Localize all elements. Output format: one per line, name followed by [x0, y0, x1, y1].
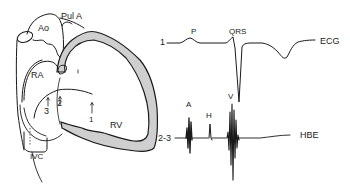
label-position-1: 1: [89, 115, 94, 124]
hbe-label: HBE: [300, 130, 319, 140]
ecg-p-wave-label: P: [191, 27, 196, 36]
ecg-label: ECG: [320, 36, 340, 46]
hbe-h-spike: [209, 124, 212, 140]
label-aorta: Ao: [38, 23, 49, 33]
hbe-lead-marker: 2-3: [158, 133, 171, 143]
ecg-lead-marker: 1: [160, 37, 165, 47]
hbe-v-complex: [227, 104, 239, 180]
label-right-atrium: RA: [31, 70, 44, 80]
label-position-3: 3: [44, 106, 49, 116]
tricuspid-annulus: [34, 89, 92, 118]
aorta: [27, 14, 64, 62]
ecg-tracing: 1 P QRS ECG: [160, 27, 340, 102]
hbe-tracing: 2-3 A H V HBE: [158, 92, 319, 180]
heart-conduction-diagram: Ao Pul A RA RV IVC 3 2 1 1 P QRS ECG 2-3…: [0, 0, 350, 190]
ecg-waveform: [167, 37, 315, 102]
label-pulmonary-artery: Pul A: [61, 11, 82, 21]
hbe-a-spike: [186, 118, 192, 153]
right-atrium-outline: [22, 60, 58, 102]
label-ivc: IVC: [30, 152, 44, 161]
heart-illustration: Ao Pul A RA RV IVC 3 2 1: [16, 11, 158, 182]
hbe-a-label: A: [186, 100, 192, 109]
label-position-2: 2: [57, 98, 62, 108]
ecg-qrs-label: QRS: [229, 27, 246, 36]
hbe-v-label: V: [228, 92, 234, 101]
rv-free-wall: [57, 31, 158, 151]
hbe-h-label: H: [206, 111, 212, 120]
label-right-ventricle: RV: [110, 120, 122, 130]
